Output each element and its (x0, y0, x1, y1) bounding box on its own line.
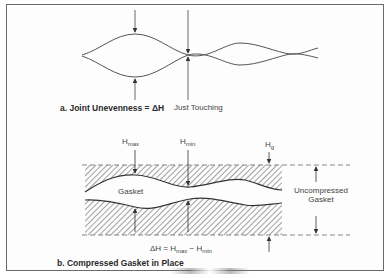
joint-surfaces-part-a (82, 34, 318, 77)
uncompressed-gasket-label: Uncompressed Gasket (290, 186, 352, 204)
lower-flange-curve (82, 54, 318, 77)
scan-artifact (170, 268, 250, 274)
caption-part-a: a. Joint Unevenness = ΔH (60, 103, 164, 113)
h-min-label: Hmin (180, 137, 195, 147)
delta-h-formula: ΔH = Hmax − Hmin (150, 244, 212, 254)
gasket-label: Gasket (118, 187, 143, 196)
flange-lower-hatched (85, 198, 282, 235)
caption-part-b: b. Compressed Gasket in Place (57, 258, 184, 268)
flange-upper-hatched (85, 165, 282, 192)
just-touching-label: Just Touching (174, 103, 223, 112)
h-g-label: Hg (265, 140, 274, 150)
h-max-label: Hmax (122, 137, 139, 147)
diagram-drawing (0, 0, 391, 278)
arrows-part-a (135, 10, 188, 100)
upper-flange-curve (82, 34, 318, 56)
